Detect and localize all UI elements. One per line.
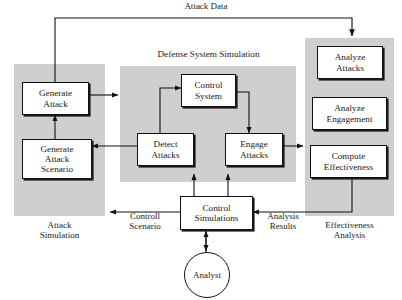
actor-analyst[interactable]: Analyst — [184, 252, 230, 298]
node-control-simulations[interactable]: Control Simulations — [180, 196, 253, 230]
node-generate-attack[interactable]: Generate Attack — [22, 82, 89, 115]
node-detect-attacks[interactable]: Detect Attacks — [137, 133, 194, 166]
node-generate-attack-scenario[interactable]: Generate Attack Scenario — [22, 139, 92, 179]
node-engage-attacks[interactable]: Engage Attacks — [225, 133, 283, 166]
node-control-system[interactable]: Control System — [181, 74, 236, 107]
node-analyze-attacks[interactable]: Analyze Attacks — [317, 46, 383, 79]
node-analyze-engagement[interactable]: Analyze Engagement — [312, 97, 387, 130]
node-compute-effectiveness[interactable]: Compute Effectiveness — [310, 145, 387, 178]
architecture-diagram: Attack Data Defense System Simulation At… — [0, 0, 402, 300]
